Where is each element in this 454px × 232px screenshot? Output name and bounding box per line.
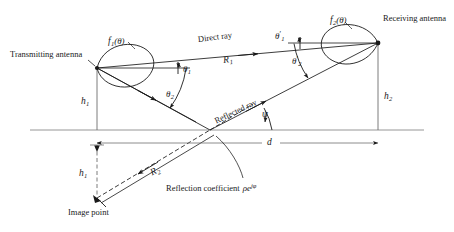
tx-height-subscript: 1 [86,100,90,107]
direct-ray-arrow [238,54,258,56]
reflection-coefficient-label: Reflection coefficientρejφ [166,183,256,193]
rx-height-subscript: 2 [389,95,393,102]
reflection-coefficient-text: Reflection coefficient [166,183,240,193]
tx-height-label: h1 [81,91,89,107]
tx-pattern-leader [128,42,135,49]
rx-pattern-argument: (θ) [336,15,346,25]
transmitting-antenna-leader [88,60,95,66]
theta2-label: θ2 [166,84,174,100]
tx-pattern-label: f1(θ) [108,31,125,47]
distance-label: d [267,138,272,148]
rx-pattern-label: f2(θ) [330,10,347,26]
reflection-coefficient-exponent: jφ [251,182,256,189]
theta2-subscript: 2 [170,93,174,100]
direct-range-label: R1 [222,49,233,66]
receiving-antenna-label: Receiving antenna [383,14,446,23]
image-height-arrow [94,146,100,153]
tx-pattern-argument: (θ) [114,36,124,46]
theta1-prime-subscript: 1 [281,35,285,42]
reflection-coefficient-leader [216,136,243,178]
tx-lower-boresight [97,68,196,122]
theta2-prime-subscript: 2 [298,60,302,67]
theta1-subscript: 1 [187,68,191,75]
image-height-label: h1 [79,163,87,179]
image-height-subscript: 1 [84,172,88,179]
image-point-tick [97,198,106,207]
reflection-coefficient-rho: ρ [240,183,247,193]
image-point-label: Image point [68,208,109,217]
direct-range-subscript: 1 [229,58,233,65]
theta1-prime-label: θ′1 [275,26,285,42]
theta1-label: θ1 [183,59,191,75]
transmitting-antenna-label: Transmitting antenna [10,50,82,59]
psi-label: ψ [262,110,268,120]
rx-height-label: h2 [384,86,392,102]
theta2-prime-label: θ′2 [292,51,302,67]
propagation-geometry-figure: Transmitting antenna Receiving antenna I… [0,0,454,232]
direct-ray-line [97,43,378,68]
